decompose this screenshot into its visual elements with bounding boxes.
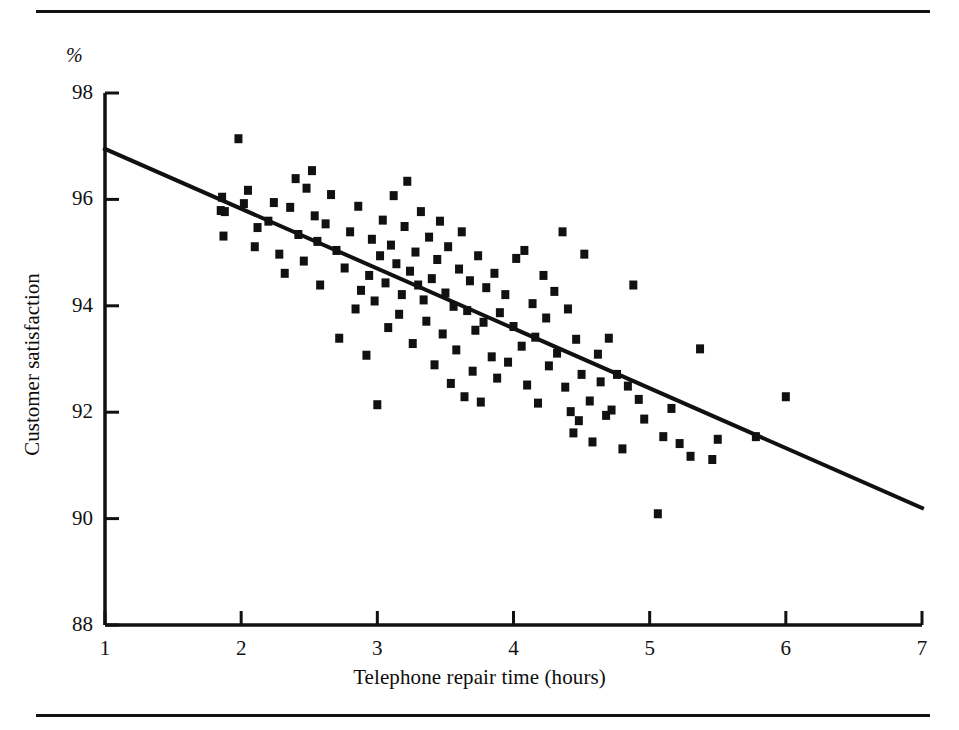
data-point-marker (586, 397, 594, 406)
data-point-marker (308, 166, 316, 175)
data-point-marker (782, 392, 790, 401)
x-axis-ticks (105, 611, 922, 625)
data-point-marker (667, 404, 675, 413)
data-point-marker (659, 432, 667, 441)
data-point-marker (676, 439, 684, 448)
data-point-marker (545, 361, 553, 370)
data-point-marker (714, 435, 722, 444)
data-point-marker (425, 233, 433, 242)
data-point-marker (354, 202, 362, 211)
data-point-marker (466, 276, 474, 285)
data-point-marker (286, 203, 294, 212)
scatter-plot-canvas (0, 0, 959, 730)
x-axis-tick-label: 2 (221, 638, 261, 659)
regression-trendline (105, 149, 922, 508)
data-point-marker (488, 352, 496, 361)
data-point-marker (387, 241, 395, 250)
data-point-marker (417, 207, 425, 216)
y-axis-tick-label: 94 (47, 295, 93, 316)
x-axis-tick-label: 3 (357, 638, 397, 659)
data-point-marker (572, 335, 580, 344)
data-point-marker (578, 370, 586, 379)
axes-lines (105, 93, 922, 625)
x-axis-tick-label: 4 (494, 638, 534, 659)
data-point-marker (254, 223, 262, 232)
data-point-marker (219, 232, 227, 241)
data-point-marker (352, 304, 360, 313)
data-point-marker (384, 323, 392, 332)
x-axis-tick-label: 1 (85, 638, 125, 659)
data-point-marker (594, 350, 602, 359)
data-point-marker (629, 281, 637, 290)
data-point-marker (561, 383, 569, 392)
data-point-marker (618, 444, 626, 453)
x-axis-tick-label: 7 (902, 638, 942, 659)
data-point-marker (480, 318, 488, 327)
data-point-marker (447, 379, 455, 388)
data-point-marker (504, 358, 512, 367)
data-point-marker (512, 254, 520, 263)
y-axis-tick-label: 90 (47, 508, 93, 529)
data-point-marker (496, 308, 504, 317)
data-point-marker (493, 374, 501, 383)
data-point-markers (217, 134, 790, 518)
data-point-marker (542, 314, 550, 323)
data-point-marker (559, 227, 567, 236)
data-point-marker (341, 264, 349, 273)
data-point-marker (460, 392, 468, 401)
data-point-marker (654, 509, 662, 518)
data-point-marker (687, 452, 695, 461)
data-point-marker (403, 177, 411, 186)
data-point-marker (569, 428, 577, 437)
data-point-marker (471, 326, 479, 335)
data-point-marker (300, 257, 308, 266)
data-point-marker (234, 134, 242, 143)
data-point-marker (292, 174, 300, 183)
data-point-marker (376, 251, 384, 260)
y-axis-tick-label: 98 (47, 82, 93, 103)
data-point-marker (382, 278, 390, 287)
data-point-marker (575, 416, 583, 425)
data-point-marker (346, 227, 354, 236)
data-point-marker (474, 251, 482, 260)
data-point-marker (270, 198, 278, 207)
data-point-marker (428, 274, 436, 283)
data-point-marker (365, 271, 373, 280)
data-point-marker (455, 265, 463, 274)
data-point-marker (379, 216, 387, 225)
data-point-marker (327, 190, 335, 199)
data-point-marker (482, 283, 490, 292)
data-point-marker (501, 290, 509, 299)
data-point-marker (436, 217, 444, 226)
data-point-marker (311, 211, 319, 220)
data-point-marker (588, 437, 596, 446)
data-point-marker (518, 342, 526, 351)
data-point-marker (251, 242, 259, 251)
data-point-marker (597, 377, 605, 386)
data-point-marker (708, 455, 716, 464)
data-point-marker (458, 227, 466, 236)
data-point-marker (608, 406, 616, 415)
data-point-marker (469, 367, 477, 376)
data-point-marker (281, 269, 289, 278)
data-point-marker (316, 281, 324, 290)
data-point-marker (580, 250, 588, 259)
x-axis-tick-label: 6 (766, 638, 806, 659)
data-point-marker (550, 287, 558, 296)
data-point-marker (362, 351, 370, 360)
data-point-marker (523, 381, 531, 390)
data-point-marker (696, 344, 704, 353)
data-point-marker (635, 395, 643, 404)
data-point-marker (640, 415, 648, 424)
data-point-marker (420, 295, 428, 304)
y-axis-tick-label: 92 (47, 401, 93, 422)
y-axis-tick-label: 88 (47, 614, 93, 635)
data-point-marker (398, 290, 406, 299)
y-axis-title: Customer satisfaction (20, 215, 45, 515)
data-point-marker (539, 271, 547, 280)
data-point-marker (368, 235, 376, 244)
percent-unit-label: % (66, 44, 83, 67)
data-point-marker (357, 286, 365, 295)
x-axis-title: Telephone repair time (hours) (0, 665, 959, 690)
data-point-marker (605, 334, 613, 343)
